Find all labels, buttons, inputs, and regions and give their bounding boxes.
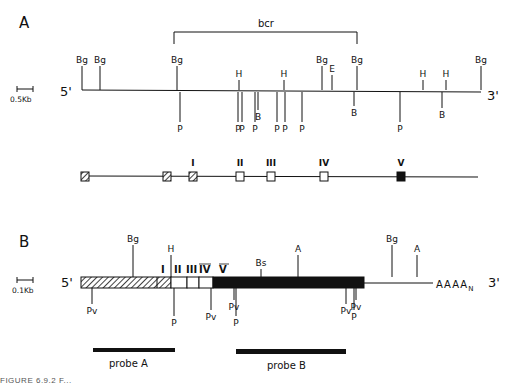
site-p: P [397, 92, 403, 134]
exon-box: IV [319, 158, 329, 181]
site-pv: Pv [87, 288, 98, 316]
site-h: H [236, 69, 243, 90]
scale-bar-b: 0.1Kb [12, 277, 34, 295]
svg-text:Bg: Bg [127, 234, 139, 244]
panel-a-label: A [19, 14, 30, 32]
exon-box: III [266, 158, 276, 181]
svg-text:Bg: Bg [316, 55, 328, 65]
site-bg: Bg [76, 55, 88, 90]
svg-text:P: P [239, 124, 245, 134]
svg-text:A: A [414, 244, 421, 254]
figure-caption: FIGURE 6.9.2 F... [0, 376, 72, 385]
probe-b: probe B [236, 349, 346, 371]
svg-text:P: P [274, 124, 280, 134]
exon-box [163, 172, 171, 181]
three-prime-a: 3' [487, 88, 499, 103]
svg-text:Pv: Pv [351, 302, 362, 312]
svg-text:P: P [351, 312, 357, 322]
restriction-sites-below-b: PvPPvPvPPvPPv [87, 288, 362, 328]
svg-text:B: B [351, 108, 357, 118]
site-pv: Pv [229, 288, 240, 312]
segment-iv [199, 277, 213, 288]
svg-text:H: H [168, 244, 175, 254]
exon-box: I [189, 158, 197, 181]
segment-label-iv: IV [199, 264, 211, 275]
diagram-canvas: A bcr 0.5Kb 5' 3' BgBgBgHHBgEBgHHBg PPPP… [0, 0, 514, 388]
svg-text:P: P [252, 124, 258, 134]
five-prime-a: 5' [60, 84, 72, 99]
svg-text:Pv: Pv [229, 302, 240, 312]
site-bg: Bg [386, 234, 398, 277]
site-h: H [420, 69, 427, 90]
site-b: B [255, 92, 261, 122]
five-prime-b: 5' [61, 275, 73, 290]
svg-text:P: P [171, 318, 177, 328]
svg-text:H: H [281, 69, 288, 79]
site-pv: Pv [351, 288, 362, 312]
svg-text:B: B [439, 110, 445, 120]
segment-label-v: V [219, 264, 227, 275]
site-bg: Bg [351, 55, 363, 90]
svg-text:Bg: Bg [351, 55, 363, 65]
site-e: E [329, 64, 335, 90]
svg-text:II: II [237, 158, 244, 168]
segment-ii [171, 277, 187, 288]
cdna-bar [81, 277, 433, 288]
svg-text:V: V [398, 158, 405, 168]
site-p: P [171, 288, 177, 328]
bcr-bracket: bcr [174, 18, 357, 44]
site-bg: Bg [171, 55, 183, 90]
site-b: B [351, 92, 357, 118]
svg-text:Bg: Bg [475, 55, 487, 65]
site-a: A [295, 244, 302, 277]
site-bg: Bg [127, 234, 139, 277]
site-p: P [239, 92, 245, 134]
panel-b: B 0.1Kb 5' I II III IV V AAAAN [12, 233, 500, 371]
probe-a: probe A [93, 348, 175, 369]
exon-box [81, 172, 89, 181]
svg-text:H: H [443, 69, 450, 79]
site-h: H [281, 69, 288, 90]
svg-text:H: H [420, 69, 427, 79]
site-p: P [177, 92, 183, 134]
scale-bar-a: 0.5Kb [10, 86, 33, 104]
svg-text:Bs: Bs [256, 258, 267, 268]
site-bg: Bg [475, 55, 487, 90]
bcr-label: bcr [258, 18, 275, 29]
svg-text:Bg: Bg [94, 55, 106, 65]
site-bs: Bs [256, 258, 267, 277]
panel-a: A bcr 0.5Kb 5' 3' BgBgBgHHBgEBgHHBg PPPP… [10, 14, 499, 181]
site-p: P [274, 92, 280, 134]
svg-text:Pv: Pv [87, 306, 98, 316]
probe-b-label: probe B [267, 360, 306, 371]
site-bg: Bg [316, 55, 328, 90]
scale-label-b: 0.1Kb [12, 286, 34, 295]
site-p: P [282, 92, 288, 134]
svg-text:Bg: Bg [171, 55, 183, 65]
restriction-sites-above-b: BgHBsABgA [127, 234, 421, 277]
restriction-sites-below: PPPPBPPPBPB [177, 92, 445, 134]
site-b: B [439, 92, 445, 120]
svg-text:P: P [233, 318, 239, 328]
svg-text:Pv: Pv [206, 312, 217, 322]
scale-label-a: 0.5Kb [10, 95, 32, 104]
svg-text:P: P [282, 124, 288, 134]
svg-text:I: I [191, 158, 194, 168]
svg-text:H: H [236, 69, 243, 79]
exon-box: II [236, 158, 244, 181]
exon-structure-line [85, 176, 478, 177]
segment-label-ii: II [174, 264, 181, 275]
site-pv: Pv [206, 288, 217, 322]
site-a: A [414, 244, 421, 277]
svg-text:P: P [177, 124, 183, 134]
svg-text:B: B [255, 112, 261, 122]
genomic-line [82, 90, 481, 92]
segment-iii [187, 277, 199, 288]
svg-text:Bg: Bg [76, 55, 88, 65]
exon-boxes: IIIIIIIVV [81, 158, 405, 181]
probe-a-label: probe A [109, 358, 148, 369]
site-bg: Bg [94, 55, 106, 90]
svg-text:IV: IV [319, 158, 329, 168]
svg-text:E: E [329, 64, 335, 74]
svg-text:A: A [295, 244, 302, 254]
